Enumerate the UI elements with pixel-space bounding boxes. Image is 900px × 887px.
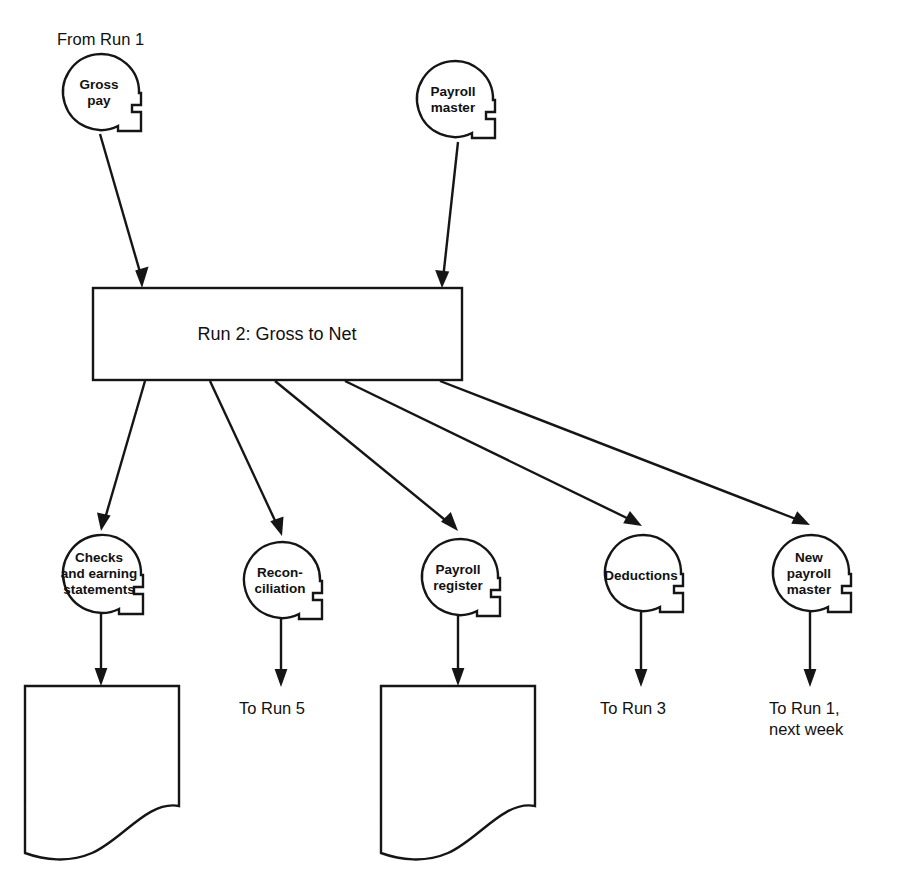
tape-payroll-register-line-2: register: [433, 578, 483, 593]
connector-new-payroll-master-to-run-1: [804, 612, 817, 687]
label-from-run-1: From Run 1: [57, 30, 144, 48]
tape-gross-pay-line-2: pay: [87, 93, 111, 108]
tape-new-payroll-master-line-3: master: [787, 582, 832, 597]
tape-new-payroll-master: New payroll master: [773, 535, 851, 612]
connector-process-to-reconciliation: [210, 381, 284, 536]
tape-gross-pay: Gross pay: [63, 54, 141, 131]
flowchart-canvas: From Run 1 Gross pay Payroll master Run …: [0, 0, 900, 887]
tape-checks-line-1: Checks: [75, 550, 123, 565]
label-to-run-3: To Run 3: [600, 699, 666, 717]
process-box-run-2: Run 2: Gross to Net: [93, 288, 462, 380]
label-to-run-1-line-2: next week: [769, 720, 844, 738]
connector-deductions-to-run-3: [635, 612, 648, 687]
tape-deductions: Deductions: [604, 535, 683, 612]
tape-new-payroll-master-line-2: payroll: [787, 566, 831, 581]
tape-checks-line-2: and earning: [61, 566, 138, 581]
document-payroll-register: [381, 686, 535, 859]
connector-payroll-master-to-process: [435, 142, 458, 288]
tape-payroll-master: Payroll master: [417, 61, 495, 138]
tape-payroll-register-line-1: Payroll: [435, 562, 480, 577]
tape-payroll-register: Payroll register: [422, 539, 500, 616]
tape-payroll-master-line-1: Payroll: [430, 84, 475, 99]
connector-process-to-payroll-register: [275, 381, 458, 531]
label-to-run-5: To Run 5: [239, 699, 305, 717]
connector-checks-to-document: [95, 614, 108, 686]
tape-reconciliation-line-2: ciliation: [254, 581, 305, 596]
label-to-run-1-line-1: To Run 1,: [769, 699, 840, 717]
connector-gross-pay-to-process: [100, 134, 149, 288]
flowchart-svg: From Run 1 Gross pay Payroll master Run …: [0, 0, 900, 887]
tape-payroll-master-line-2: master: [431, 100, 476, 115]
tape-gross-pay-line-1: Gross: [79, 77, 118, 92]
process-box-label: Run 2: Gross to Net: [197, 324, 356, 344]
tape-checks-and-earning-statements: Checks and earning statements: [61, 535, 143, 614]
connector-process-to-checks: [97, 381, 145, 531]
connector-reconciliation-to-run-5: [275, 619, 288, 687]
connector-payroll-register-to-document: [452, 616, 465, 686]
tape-reconciliation-line-1: Recon-: [257, 565, 303, 580]
tape-deductions-line-1: Deductions: [604, 568, 678, 583]
tape-reconciliation: Recon- ciliation: [244, 542, 322, 619]
tape-new-payroll-master-line-1: New: [795, 550, 823, 565]
tape-checks-line-3: statements: [63, 582, 134, 597]
document-checks: [25, 686, 179, 859]
